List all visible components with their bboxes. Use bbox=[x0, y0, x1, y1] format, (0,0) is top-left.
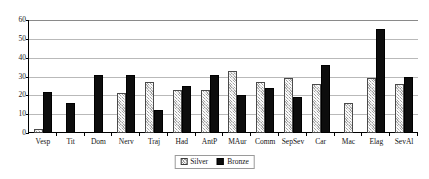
bar-group-seval bbox=[390, 20, 418, 133]
bar-silver-antp bbox=[201, 90, 210, 133]
x-axis-label-car: Car bbox=[307, 137, 335, 147]
bar-bronze-traj bbox=[154, 110, 163, 133]
bar-bronze-car bbox=[321, 65, 330, 133]
bar-silver-elag bbox=[367, 78, 376, 133]
bar-bronze-vesp bbox=[43, 92, 52, 133]
bar-group-antp bbox=[196, 20, 224, 133]
bar-silver-traj bbox=[145, 82, 154, 133]
x-axis-labels: VespTitDomNervTrajHadAntPMAurCommSepSevC… bbox=[29, 137, 418, 147]
y-axis: 0102030405060 bbox=[0, 20, 26, 133]
y-tick-label-50: 50 bbox=[2, 35, 26, 43]
bar-group-traj bbox=[140, 20, 168, 133]
y-tick-label-40: 40 bbox=[2, 54, 26, 62]
x-axis-label-nerv: Nerv bbox=[112, 137, 140, 147]
bar-bronze-comm bbox=[265, 88, 274, 133]
bar-group-maur bbox=[223, 20, 251, 133]
bar-silver-mac bbox=[344, 103, 353, 133]
x-axis-label-seval: SevAl bbox=[390, 137, 418, 147]
bar-group-had bbox=[168, 20, 196, 133]
bar-bronze-seval bbox=[404, 77, 413, 134]
bar-bronze-antp bbox=[210, 75, 219, 133]
bar-group-dom bbox=[85, 20, 113, 133]
bar-bronze-elag bbox=[376, 29, 385, 133]
bar-bronze-nerv bbox=[126, 75, 135, 133]
y-tick-label-60: 60 bbox=[2, 16, 26, 24]
bar-group-nerv bbox=[112, 20, 140, 133]
bar-group-comm bbox=[251, 20, 279, 133]
bar-silver-maur bbox=[228, 71, 237, 133]
bronze-solid-swatch bbox=[217, 158, 224, 165]
bars-layer bbox=[29, 20, 418, 133]
legend-label-bronze: Bronze bbox=[227, 157, 249, 166]
x-axis-label-antp: AntP bbox=[196, 137, 224, 147]
x-axis-label-sepsev: SepSev bbox=[279, 137, 307, 147]
y-tick-label-10: 10 bbox=[2, 110, 26, 118]
x-axis-label-traj: Traj bbox=[140, 137, 168, 147]
x-axis-label-mac: Mac bbox=[335, 137, 363, 147]
x-axis-label-elag: Elag bbox=[362, 137, 390, 147]
bar-silver-car bbox=[312, 84, 321, 133]
bar-chart: 0102030405060 VespTitDomNervTrajHadAntPM… bbox=[0, 0, 429, 179]
y-tick-label-30: 30 bbox=[2, 73, 26, 81]
x-axis-label-comm: Comm bbox=[251, 137, 279, 147]
bar-group-sepsev bbox=[279, 20, 307, 133]
x-axis-label-vesp: Vesp bbox=[29, 137, 57, 147]
bar-silver-seval bbox=[395, 84, 404, 133]
bar-silver-nerv bbox=[117, 93, 126, 133]
x-axis-label-dom: Dom bbox=[85, 137, 113, 147]
bar-bronze-maur bbox=[237, 95, 246, 133]
bar-group-tit bbox=[57, 20, 85, 133]
bar-group-vesp bbox=[29, 20, 57, 133]
bar-group-car bbox=[307, 20, 335, 133]
x-axis-label-had: Had bbox=[168, 137, 196, 147]
bar-bronze-dom bbox=[94, 75, 103, 133]
bar-bronze-sepsev bbox=[293, 97, 302, 133]
bar-group-elag bbox=[362, 20, 390, 133]
bar-silver-had bbox=[173, 90, 182, 133]
bar-group-mac bbox=[335, 20, 363, 133]
legend-item-bronze[interactable]: Bronze bbox=[217, 157, 249, 166]
bar-bronze-tit bbox=[66, 103, 75, 133]
x-axis-label-tit: Tit bbox=[57, 137, 85, 147]
y-tick-label-0: 0 bbox=[2, 129, 26, 137]
chart-legend: SilverBronze bbox=[174, 155, 255, 169]
legend-label-silver: Silver bbox=[190, 157, 208, 166]
bar-silver-comm bbox=[256, 82, 265, 133]
bar-silver-sepsev bbox=[284, 78, 293, 133]
silver-hatched-swatch bbox=[180, 158, 187, 165]
y-tick-label-20: 20 bbox=[2, 91, 26, 99]
legend-item-silver[interactable]: Silver bbox=[180, 157, 208, 166]
bar-bronze-had bbox=[182, 86, 191, 133]
x-axis-label-maur: MAur bbox=[223, 137, 251, 147]
